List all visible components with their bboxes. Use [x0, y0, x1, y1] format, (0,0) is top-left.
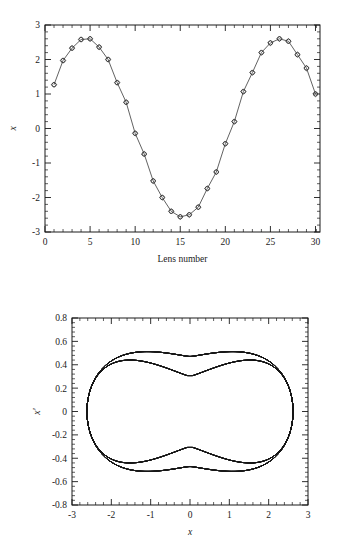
top-chart-svg: 051015202530-3-2-10123Lens numberx	[0, 0, 342, 276]
x-tick-label: -3	[68, 510, 76, 520]
x-tick-label: 0	[43, 237, 48, 247]
y-tick-label: -0.2	[52, 430, 67, 440]
bottom-chart-svg: -3-2-10123-0.8-0.6-0.4-0.200.20.40.60.8x…	[0, 280, 342, 556]
x-tick-label: -2	[107, 510, 115, 520]
x-tick-label: 5	[88, 237, 93, 247]
x-tick-label: 3	[306, 510, 311, 520]
y-axis-title: x′	[32, 407, 42, 415]
y-tick-label: -0.8	[52, 500, 67, 510]
x-tick-label: 2	[266, 510, 271, 520]
y-axis-title: x	[8, 126, 18, 132]
y-tick-label: 3	[35, 20, 40, 30]
scientific-figure: 051015202530-3-2-10123Lens numberx -3-2-…	[0, 0, 342, 556]
x-tick-label: 1	[227, 510, 232, 520]
y-tick-label: 0	[62, 407, 67, 417]
y-tick-label: 0.8	[55, 313, 67, 323]
panel-phase-space-portrait: -3-2-10123-0.8-0.6-0.4-0.200.20.40.60.8x…	[0, 280, 342, 556]
x-tick-label: 0	[188, 510, 193, 520]
x-tick-label: 10	[130, 237, 140, 247]
phase-space-traces	[87, 352, 293, 472]
y-tick-label: 2	[35, 55, 40, 65]
x-axis-title: x	[187, 527, 193, 537]
y-tick-label: 1	[35, 89, 40, 99]
y-tick-label: 0.2	[55, 384, 67, 394]
y-tick-label: -0.6	[52, 477, 67, 487]
x-axis-title: Lens number	[158, 254, 209, 264]
y-tick-label: -0.4	[52, 454, 67, 464]
y-tick-label: 0.4	[55, 360, 67, 370]
x-tick-label: 25	[266, 237, 276, 247]
phase-space-hole	[140, 376, 241, 446]
x-tick-label: 30	[311, 237, 321, 247]
data-line	[54, 39, 315, 217]
y-tick-label: -3	[32, 227, 40, 237]
y-tick-label: -2	[32, 193, 40, 203]
x-tick-label: 15	[175, 237, 185, 247]
plot-frame	[45, 25, 320, 232]
x-tick-label: 20	[221, 237, 231, 247]
panel-lens-number-trajectory: 051015202530-3-2-10123Lens numberx	[0, 0, 342, 276]
y-tick-label: 0	[35, 124, 40, 134]
y-tick-label: 0.6	[55, 337, 67, 347]
y-tick-label: -1	[32, 158, 40, 168]
x-tick-label: -1	[147, 510, 155, 520]
